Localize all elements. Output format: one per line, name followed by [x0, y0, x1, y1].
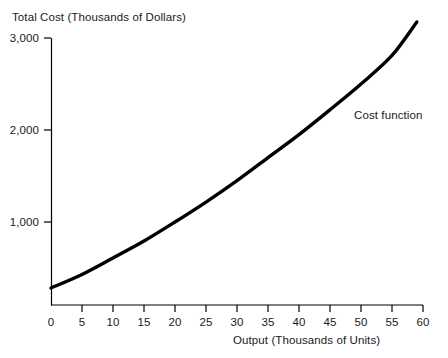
x-axis-tick-label: 50: [355, 316, 368, 328]
plot-area: [0, 0, 448, 358]
x-axis-tick-label: 35: [262, 316, 275, 328]
x-axis-tick-label: 45: [324, 316, 337, 328]
y-axis-tick-label: 3,000: [0, 32, 39, 44]
x-axis-tick-label: 25: [200, 316, 213, 328]
x-axis-tick-label: 5: [79, 316, 86, 328]
x-axis-tick-label: 15: [138, 316, 151, 328]
x-axis-ticks: [82, 305, 423, 312]
x-axis-tick-label: 55: [386, 316, 399, 328]
cost-function-chart: Total Cost (Thousands of Dollars) Output…: [0, 0, 448, 358]
cost-function-curve: [51, 22, 417, 288]
y-axis-tick-label: 1,000: [0, 216, 39, 228]
y-axis-tick-label: 2,000: [0, 124, 39, 136]
x-axis-tick-label: 60: [417, 316, 430, 328]
x-axis-tick-label: 30: [231, 316, 244, 328]
x-axis-tick-label: 20: [169, 316, 182, 328]
x-axis-tick-label: 10: [107, 316, 120, 328]
x-axis-tick-label: 0: [48, 316, 55, 328]
x-axis-tick-label: 40: [293, 316, 306, 328]
y-axis-ticks: [44, 38, 51, 222]
